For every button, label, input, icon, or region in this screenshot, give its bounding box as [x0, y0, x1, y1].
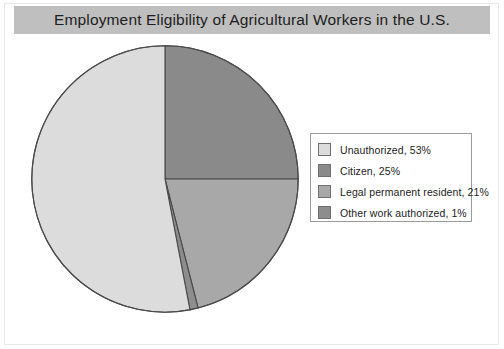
legend-swatch-unauthorized [318, 143, 331, 156]
legend-label-citizen: Citizen, 25% [340, 165, 400, 177]
legend-item-legal-permanent-resident[interactable]: Legal permanent resident, 21% [318, 181, 471, 202]
pie-slices [32, 46, 298, 312]
legend-item-citizen[interactable]: Citizen, 25% [318, 160, 471, 181]
legend-label-other-work-authorized: Other work authorized, 1% [340, 207, 467, 219]
legend-swatch-other-work-authorized [318, 206, 331, 219]
legend-item-unauthorized[interactable]: Unauthorized, 53% [318, 139, 471, 160]
chart-title-bar: Employment Eligibility of Agricultural W… [14, 6, 490, 34]
legend-swatch-legal-permanent-resident [318, 185, 331, 198]
page-title: Employment Eligibility of Agricultural W… [54, 11, 450, 29]
pie-chart [31, 45, 299, 313]
legend-swatch-citizen [318, 164, 331, 177]
plot-area: Unauthorized, 53% Citizen, 25% Legal per… [0, 34, 504, 349]
legend-item-other-work-authorized[interactable]: Other work authorized, 1% [318, 202, 471, 223]
chart-figure: Employment Eligibility of Agricultural W… [0, 0, 504, 349]
chart-legend: Unauthorized, 53% Citizen, 25% Legal per… [310, 133, 472, 222]
pie-slice-citizen[interactable] [165, 46, 298, 179]
legend-label-unauthorized: Unauthorized, 53% [340, 144, 431, 156]
legend-label-legal-permanent-resident: Legal permanent resident, 21% [340, 186, 489, 198]
